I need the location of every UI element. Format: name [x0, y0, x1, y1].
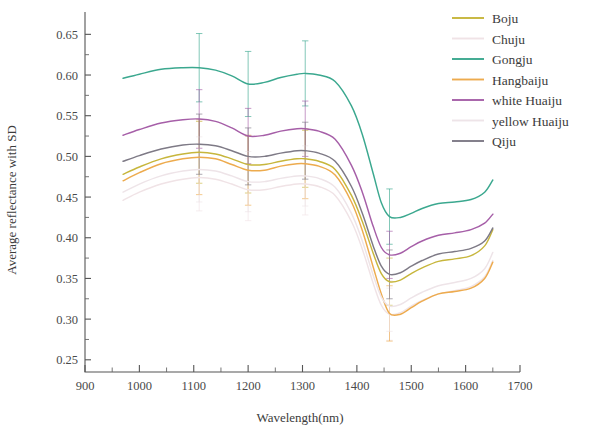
legend-label: Hangbaiju	[492, 73, 548, 88]
legend-label: Qiju	[492, 134, 516, 149]
chart-legend: BojuChujuGongjuHangbaijuwhite Huaijuyell…	[452, 11, 569, 149]
x-tick-label: 1700	[508, 379, 533, 393]
y-axis-tick-labels: 0.250.300.350.400.450.500.550.600.65	[56, 28, 78, 367]
x-tick-label: 1000	[127, 379, 152, 393]
y-tick-label: 0.50	[56, 150, 78, 164]
y-tick-label: 0.30	[56, 313, 78, 327]
x-axis-tick-labels: 90010001100120013001400150016001700	[76, 379, 533, 393]
data-series-curves	[123, 67, 493, 315]
y-tick-label: 0.25	[56, 353, 78, 367]
x-axis-title: Wavelength(nm)	[256, 410, 343, 425]
y-tick-label: 0.40	[56, 231, 78, 245]
y-tick-label: 0.60	[56, 69, 78, 83]
y-axis-ticks	[85, 34, 91, 359]
legend-label: white Huaiju	[492, 93, 562, 108]
x-tick-label: 1300	[290, 379, 315, 393]
y-tick-label: 0.45	[56, 191, 78, 205]
legend-label: yellow Huaiju	[492, 114, 569, 129]
chart-canvas: 0.250.300.350.400.450.500.550.600.65 900…	[0, 0, 606, 431]
legend-label: Chuju	[492, 32, 525, 47]
series-line	[123, 169, 493, 306]
x-tick-label: 1600	[453, 379, 478, 393]
x-tick-label: 1100	[181, 379, 206, 393]
x-axis-ticks	[85, 365, 520, 372]
spectral-reflectance-chart: 0.250.300.350.400.450.500.550.600.65 900…	[0, 0, 606, 431]
y-tick-label: 0.65	[56, 28, 78, 42]
legend-label: Boju	[492, 11, 519, 26]
plot-frame	[85, 12, 520, 372]
error-bars	[196, 34, 393, 342]
y-axis-title: Average reflectance with SD	[4, 125, 19, 275]
x-tick-label: 1400	[344, 379, 369, 393]
series-line	[123, 67, 493, 218]
legend-label: Gongju	[492, 52, 533, 67]
x-tick-label: 900	[76, 379, 95, 393]
x-tick-label: 1500	[399, 379, 424, 393]
y-tick-label: 0.35	[56, 272, 78, 286]
x-tick-label: 1200	[236, 379, 261, 393]
y-tick-label: 0.55	[56, 109, 78, 123]
